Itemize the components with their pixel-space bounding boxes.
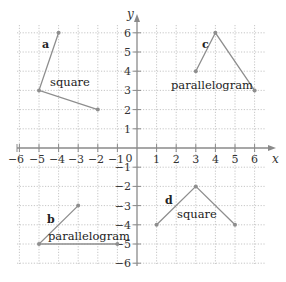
figure-c-shape-label: parallelogram xyxy=(171,78,253,92)
svg-text:1: 1 xyxy=(124,123,131,136)
svg-text:−5: −5 xyxy=(29,153,45,166)
figure-c: c parallelogram xyxy=(171,31,257,93)
svg-text:−6: −6 xyxy=(8,153,24,166)
x-axis-arrow-icon xyxy=(268,145,276,151)
svg-text:5: 5 xyxy=(232,153,239,166)
svg-text:−2: −2 xyxy=(115,180,131,193)
coordinate-plane: −6 −5 −4 −3 −2 −1 1 2 3 4 5 6 0 6 5 4 3 … xyxy=(0,0,286,282)
figure-c-letter: c xyxy=(202,38,209,51)
figure-b-shape-label: parallelogram xyxy=(48,229,130,243)
svg-text:−4: −4 xyxy=(49,153,65,166)
figure-a-shape-label: square xyxy=(50,75,90,89)
svg-text:6: 6 xyxy=(124,27,131,40)
y-axis-arrow-icon xyxy=(134,14,140,22)
svg-text:3: 3 xyxy=(124,84,131,97)
svg-text:3: 3 xyxy=(192,153,199,166)
y-axis-label: y xyxy=(126,7,134,21)
figure-d-letter: d xyxy=(165,194,173,207)
svg-text:−1: −1 xyxy=(115,161,131,174)
figure-b-letter: b xyxy=(47,213,55,226)
svg-text:−6: −6 xyxy=(115,257,131,270)
svg-text:−3: −3 xyxy=(68,153,84,166)
x-tick-labels: −6 −5 −4 −3 −2 −1 1 2 3 4 5 6 xyxy=(8,153,258,166)
svg-text:2: 2 xyxy=(124,104,131,117)
svg-text:4: 4 xyxy=(212,153,219,166)
svg-text:2: 2 xyxy=(173,153,180,166)
x-axis-label: x xyxy=(272,152,279,166)
svg-text:1: 1 xyxy=(153,153,160,166)
figure-a-letter: a xyxy=(42,38,49,51)
svg-text:−2: −2 xyxy=(88,153,104,166)
figure-d-shape-label: square xyxy=(177,207,217,221)
svg-text:4: 4 xyxy=(124,65,131,78)
svg-text:5: 5 xyxy=(124,46,131,59)
svg-text:6: 6 xyxy=(251,153,258,166)
svg-text:−3: −3 xyxy=(115,200,131,213)
